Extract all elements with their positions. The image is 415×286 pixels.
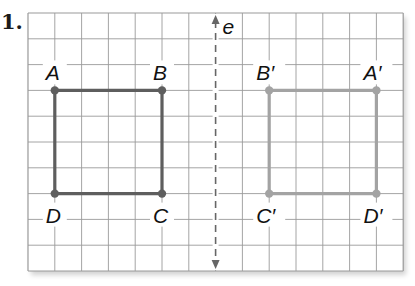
vertex-point — [51, 189, 59, 197]
vertex-label: C — [153, 204, 169, 227]
reflection-diagram: e ABCDA′B′C′D′ — [0, 0, 415, 286]
vertex-label: A′ — [361, 61, 382, 84]
line-label-e: e — [223, 15, 235, 38]
vertex-point — [51, 86, 59, 94]
vertex-point — [265, 189, 273, 197]
vertex-point — [265, 86, 273, 94]
vertex-point — [158, 86, 166, 94]
vertex-point — [372, 86, 380, 94]
vertex-label: A — [44, 61, 60, 84]
vertex-label: D — [46, 204, 61, 227]
vertex-label: C′ — [256, 204, 276, 227]
vertex-label: B′ — [256, 61, 275, 84]
vertex-point — [158, 189, 166, 197]
vertex-label: D′ — [363, 204, 383, 227]
vertex-label: B — [153, 61, 167, 84]
vertex-point — [372, 189, 380, 197]
